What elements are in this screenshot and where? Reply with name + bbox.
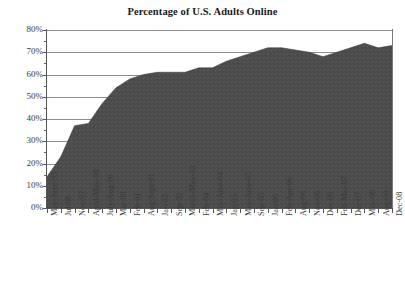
x-axis-tick-label: Dec-06 — [326, 192, 335, 216]
x-axis-tick-label: April-May-98 — [92, 169, 101, 216]
x-axis-tick-label: May-June-95 — [50, 172, 59, 216]
chart-container: Percentage of U.S. Adults Online 0%10%20… — [0, 0, 405, 298]
x-axis-tick-label: Jan-02 — [161, 194, 170, 216]
x-axis-tick-mark — [75, 209, 76, 213]
x-axis-tick-mark — [392, 209, 393, 213]
y-axis-tick-label: 10% — [3, 180, 43, 190]
y-axis-tick-label: 30% — [3, 135, 43, 145]
y-axis-tick-label: 40% — [3, 113, 43, 123]
x-axis-tick-mark — [378, 209, 379, 213]
x-axis-tick-mark — [144, 209, 145, 213]
x-axis-tick-mark — [282, 209, 283, 213]
x-axis-tick-mark — [171, 209, 172, 213]
y-axis-tick-label: 50% — [3, 91, 43, 101]
x-axis-tick-label: Aug-06 — [299, 191, 308, 216]
plot-right-border — [392, 29, 393, 209]
x-axis-tick-mark — [157, 209, 158, 213]
x-axis-tick-label: May-08 — [368, 190, 377, 216]
x-axis-tick-label: Jul-96 — [64, 195, 73, 216]
x-axis-tick-mark — [130, 209, 131, 213]
x-axis-tick-label: Dec-08 — [395, 192, 404, 216]
x-axis-tick-mark — [88, 209, 89, 213]
y-axis-tick-label: 80% — [3, 24, 43, 34]
x-axis-tick-mark — [337, 209, 338, 213]
x-axis-tick-mark — [47, 209, 48, 213]
x-axis-tick-label: Feb-Mar-07 — [340, 176, 349, 216]
x-axis-tick-label: Feb-01 — [133, 192, 142, 216]
x-axis-tick-mark — [254, 209, 255, 213]
y-axis-tick-label: 20% — [3, 158, 43, 168]
x-axis-tick-mark — [364, 209, 365, 213]
x-axis-tick-mark — [226, 209, 227, 213]
x-axis-tick-label: Aug-Sept-01 — [147, 173, 156, 216]
x-axis-tick-mark — [116, 209, 117, 213]
x-axis-tick-mark — [185, 209, 186, 213]
x-axis-tick-label: Sep-05 — [257, 192, 266, 216]
x-axis-tick-mark — [323, 209, 324, 213]
x-axis-tick-mark — [295, 209, 296, 213]
x-axis-tick-mark — [102, 209, 103, 213]
x-axis-tick-mark — [61, 209, 62, 213]
x-axis-tick-mark — [351, 209, 352, 213]
x-axis-tick-mark — [199, 209, 200, 213]
x-axis-tick-label: Jan-05 — [230, 194, 239, 216]
x-axis-tick-label: Feb-04 — [202, 192, 211, 216]
x-axis-tick-label: Feb-Apr-06 — [285, 177, 294, 216]
x-axis-tick-label: July-Aug-00 — [106, 174, 115, 216]
x-axis-tick-mark — [240, 209, 241, 213]
x-axis-tick-label: March-May-03 — [188, 165, 197, 216]
y-axis-tick-labels: 0%10%20%30%40%50%60%70%80% — [0, 0, 43, 298]
y-axis-tick-label: 0% — [3, 202, 43, 212]
x-axis-tick-label: Aug-08 — [382, 191, 391, 216]
x-axis-tick-label: Nov-06 — [313, 191, 322, 216]
x-axis-tick-label: Dec-07 — [354, 192, 363, 216]
chart-title: Percentage of U.S. Adults Online — [0, 6, 405, 17]
x-axis-tick-label: Nov-97 — [78, 191, 87, 216]
x-axis-tick-mark — [268, 209, 269, 213]
y-axis-tick-label: 70% — [3, 46, 43, 56]
x-axis-tick-label: Mar-00 — [119, 191, 128, 216]
x-axis-tick-label: May-June-05 — [244, 172, 253, 216]
x-axis-tick-mark — [213, 209, 214, 213]
x-axis-tick-label: Jan-06 — [271, 194, 280, 216]
x-axis-tick-label: Sep-02 — [175, 192, 184, 216]
x-axis-tick-label: May-June-04 — [216, 172, 225, 216]
x-axis-tick-mark — [309, 209, 310, 213]
y-axis-tick-label: 60% — [3, 69, 43, 79]
